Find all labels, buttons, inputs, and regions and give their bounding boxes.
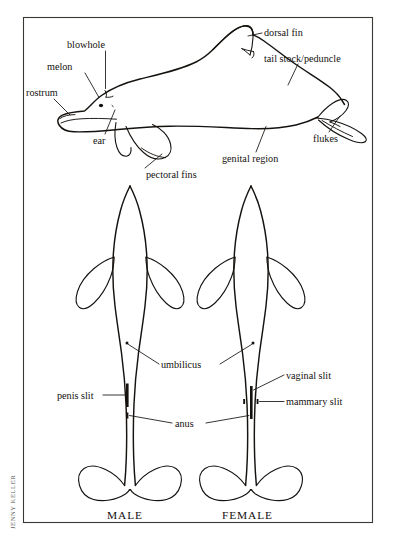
label-penis-slit: penis slit (57, 390, 94, 401)
male-umbilicus-mark (126, 342, 129, 345)
label-rostrum: rostrum (26, 87, 58, 98)
label-pectoral-fins: pectoral fins (146, 169, 197, 180)
male-fluke-notch (130, 490, 131, 492)
label-vaginal-slit: vaginal slit (286, 370, 331, 381)
label-flukes: flukes (313, 133, 338, 144)
female-fluke-notch (251, 490, 252, 492)
female-mammary-slit-left-mark (243, 399, 245, 404)
eye-mark (99, 104, 103, 107)
label-ear: ear (93, 135, 106, 146)
male-caption: MALE (107, 509, 143, 521)
artist-credit: JENNY KELLER (9, 475, 16, 529)
female-vaginal-slit-mark (250, 386, 253, 419)
label-blowhole: blowhole (67, 39, 105, 50)
male-anus-mark (126, 413, 128, 419)
dolphin-anatomy-figure: JENNY KELLER (0, 0, 395, 547)
label-melon: melon (47, 61, 72, 72)
label-tail-stock: tail stock/peduncle (264, 53, 341, 64)
female-caption: FEMALE (222, 509, 273, 521)
artist-credit-text: JENNY KELLER (9, 475, 16, 529)
label-anus: anus (175, 418, 194, 429)
label-genital-region: genital region (222, 153, 278, 164)
label-umbilicus: umbilicus (161, 359, 201, 370)
label-dorsal-fin: dorsal fin (264, 27, 303, 38)
male-penis-slit-mark (126, 384, 129, 408)
female-umbilicus-mark (252, 342, 255, 345)
figure-canvas: JENNY KELLER (0, 0, 395, 547)
label-mammary-slit: mammary slit (286, 396, 342, 407)
female-mammary-slit-right-mark (257, 399, 259, 404)
